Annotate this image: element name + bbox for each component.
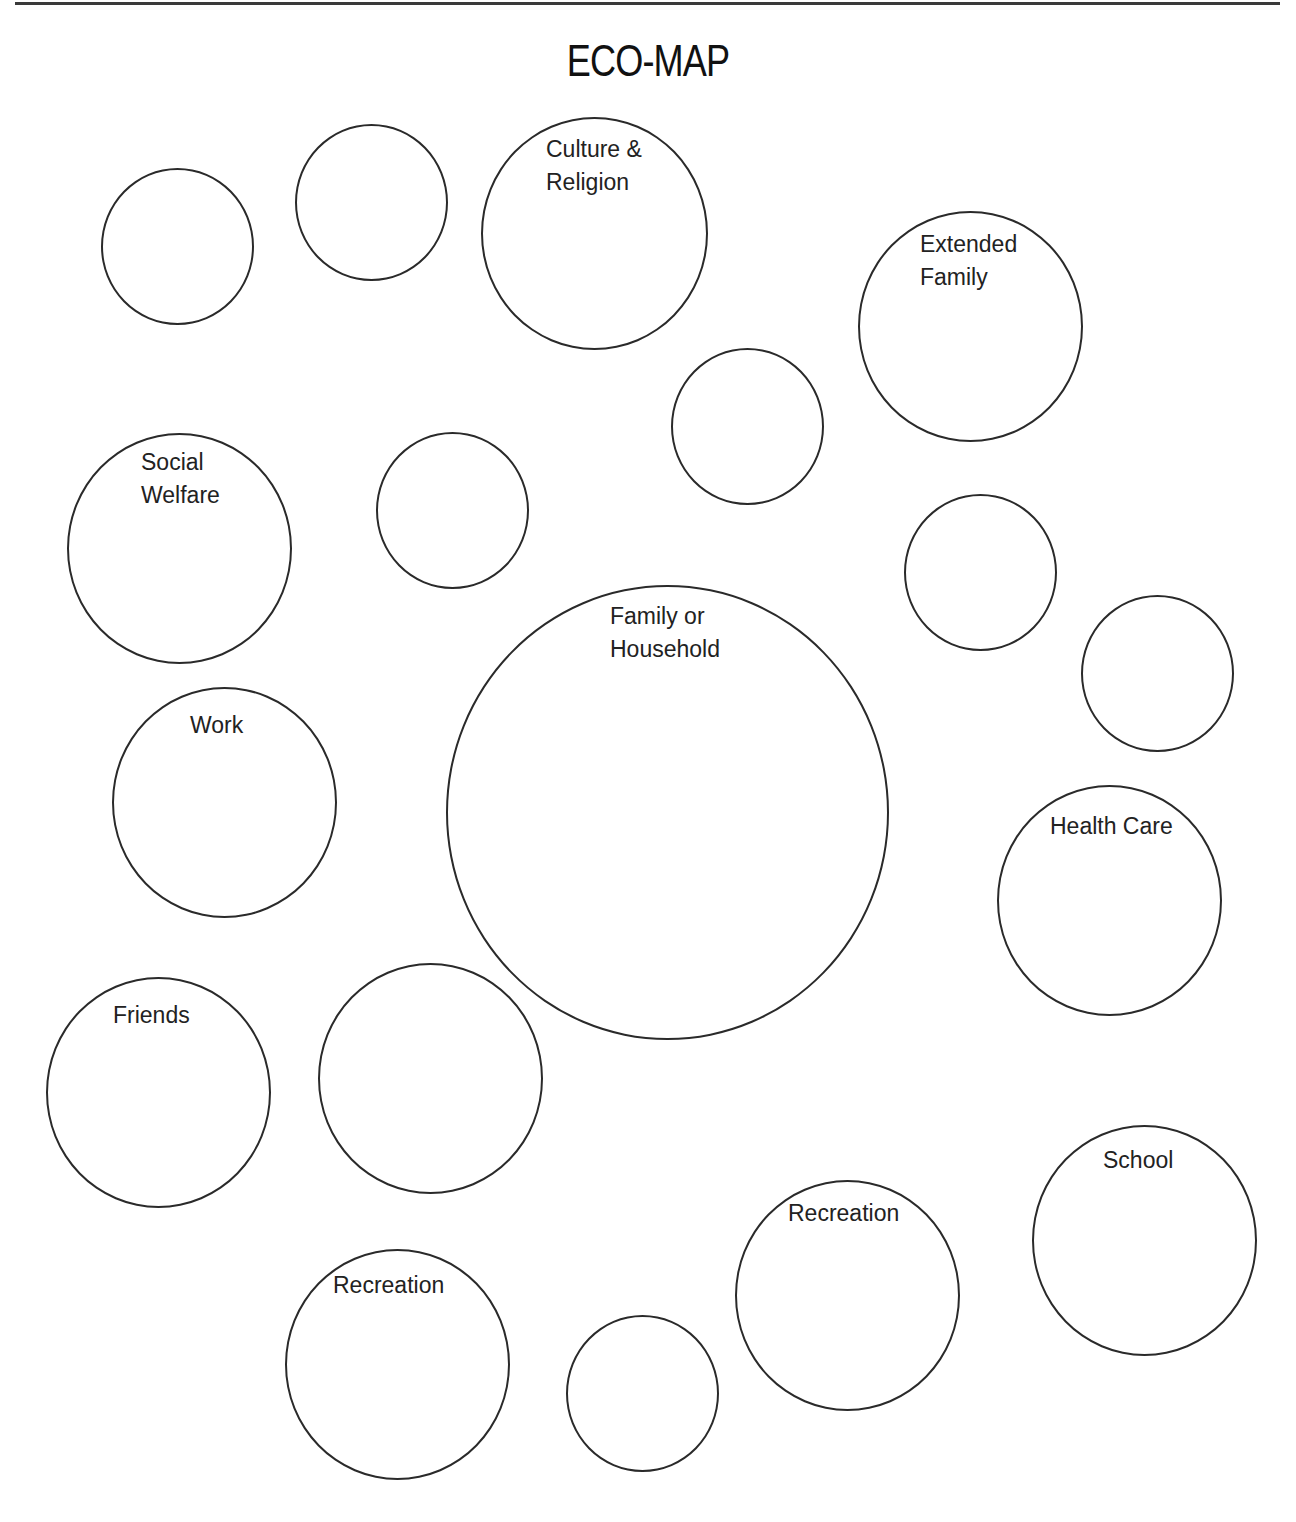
blank-circle-4[interactable] [376, 432, 529, 589]
blank-circle-7[interactable] [318, 963, 543, 1194]
health-care-label: Health Care [1050, 810, 1173, 843]
recreation-right-label: Recreation [788, 1197, 899, 1230]
blank-circle-3[interactable] [671, 348, 824, 505]
family-household-label: Family or Household [610, 600, 720, 666]
social-welfare-label: Social Welfare [141, 446, 220, 512]
top-divider-line [15, 2, 1280, 5]
blank-circle-2[interactable] [295, 124, 448, 281]
work-label: Work [190, 709, 243, 742]
extended-family-label: Extended Family [920, 228, 1017, 294]
blank-circle-5[interactable] [904, 494, 1057, 651]
page-title: ECO-MAP [117, 36, 1180, 86]
blank-circle-8[interactable] [566, 1315, 719, 1472]
recreation-left-label: Recreation [333, 1269, 444, 1302]
blank-circle-1[interactable] [101, 168, 254, 325]
culture-religion-label: Culture & Religion [546, 133, 642, 199]
friends-label: Friends [113, 999, 190, 1032]
school-label: School [1103, 1144, 1173, 1177]
blank-circle-6[interactable] [1081, 595, 1234, 752]
